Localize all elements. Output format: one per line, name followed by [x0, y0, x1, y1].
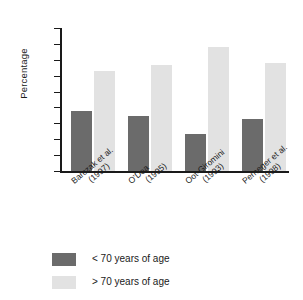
chart-legend: < 70 years of age> 70 years of age: [52, 250, 170, 296]
legend-swatch: [52, 253, 76, 266]
plot-area: 9080706050403020100: [60, 28, 289, 173]
legend-item: > 70 years of age: [52, 273, 170, 291]
y-axis-tick: [54, 28, 60, 29]
legend-label: < 70 years of age: [92, 253, 170, 265]
y-axis-tick: [54, 155, 60, 156]
y-axis-tick: [54, 139, 60, 140]
y-axis-tick: [54, 60, 60, 61]
y-axis-tick: [54, 92, 60, 93]
legend-item: < 70 years of age: [52, 250, 170, 268]
y-axis-tick: [54, 76, 60, 77]
y-axis-tick: [54, 123, 60, 124]
y-axis-title: Percentage: [18, 19, 29, 129]
y-axis-tick: [54, 171, 60, 172]
y-axis-line: [60, 28, 62, 173]
y-axis-tick: [54, 44, 60, 45]
legend-swatch: [52, 276, 76, 289]
y-axis-tick: [54, 107, 60, 108]
legend-label: > 70 years of age: [92, 276, 170, 288]
bar-chart-figure: Percentage 9080706050403020100 Barczak e…: [0, 0, 303, 300]
